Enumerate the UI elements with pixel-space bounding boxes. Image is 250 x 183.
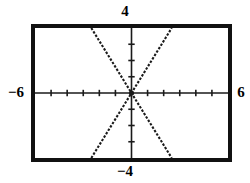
origin-marker [129, 90, 134, 95]
plot-frame-border [31, 24, 232, 162]
x-max-label: 6 [232, 85, 250, 100]
plot-area [35, 28, 228, 158]
y-max-label: 4 [0, 4, 250, 19]
x-min-label: −6 [2, 85, 30, 100]
graphing-calculator-screen: 4 −6 6 −4 [0, 0, 250, 183]
y-min-label: −4 [0, 164, 250, 179]
